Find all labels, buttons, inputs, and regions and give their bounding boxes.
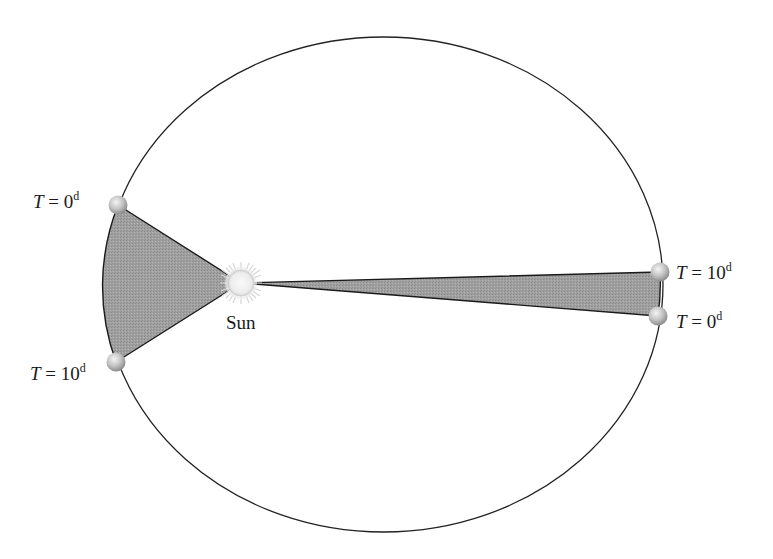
time-value: = 10 (687, 262, 726, 283)
time-variable: T (676, 311, 687, 332)
swept-area-aphelion (241, 272, 660, 316)
planet-left-end-icon (107, 353, 126, 372)
time-variable: T (676, 262, 687, 283)
days-unit: d (726, 260, 732, 274)
kepler-orbit-diagram: T = 0d T = 10d T = 10d T = 0d Sun (0, 0, 773, 559)
days-unit: d (716, 309, 722, 323)
time-value: = 0 (687, 311, 717, 332)
days-unit: d (73, 189, 79, 203)
time-value: = 0 (44, 191, 74, 212)
sun-icon (220, 262, 262, 304)
planet-right-end-icon (651, 263, 670, 282)
time-value: = 10 (41, 363, 80, 384)
planet-right-start-icon (649, 307, 668, 326)
label-right-start: T = 0d (676, 312, 722, 331)
time-variable: T (30, 363, 41, 384)
time-variable: T (33, 191, 44, 212)
orbit-svg (0, 0, 773, 559)
label-left-start: T = 0d (33, 192, 79, 211)
planet-left-start-icon (109, 196, 128, 215)
label-left-end: T = 10d (30, 364, 86, 383)
sun-label: Sun (226, 313, 256, 332)
label-right-end: T = 10d (676, 263, 732, 282)
days-unit: d (80, 361, 86, 375)
